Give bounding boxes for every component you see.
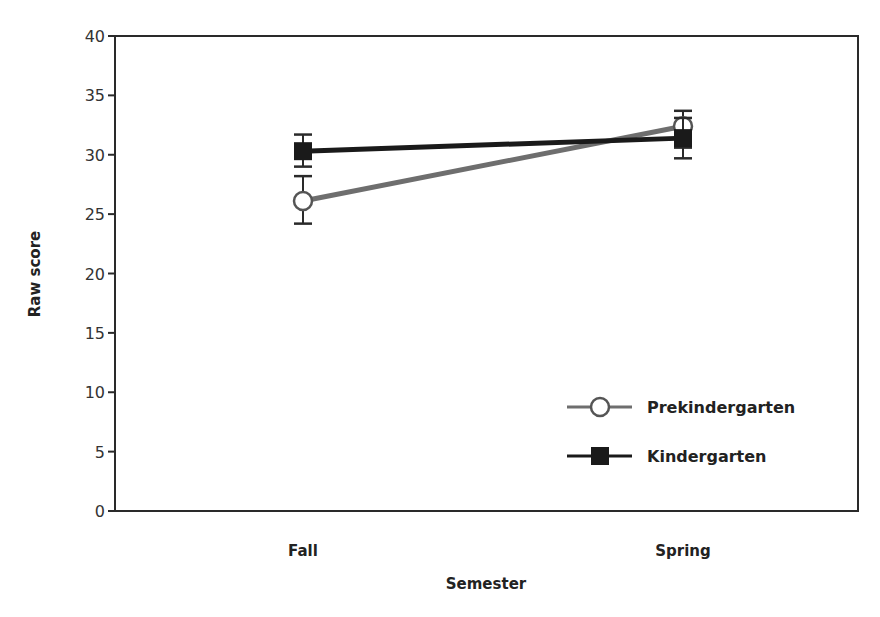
legend-label: Prekindergarten <box>647 398 795 417</box>
y-tick-label: 15 <box>85 324 105 343</box>
x-axis-labels: FallSpring <box>288 542 711 560</box>
y-tick-label: 40 <box>85 27 105 46</box>
series-line-kindergarten <box>303 138 683 151</box>
x-tick-label: Spring <box>655 542 711 560</box>
y-tick-label: 10 <box>85 383 105 402</box>
line-chart: 0510152025303540 FallSpring Raw score Se… <box>0 0 880 617</box>
open-circle-marker-icon <box>294 192 312 210</box>
filled-square-marker-icon <box>294 142 312 160</box>
legend-item-kindergarten: Kindergarten <box>567 447 767 466</box>
x-axis-title: Semester <box>446 575 527 593</box>
legend-item-prekindergarten: Prekindergarten <box>567 398 795 417</box>
y-axis-title: Raw score <box>26 231 44 317</box>
legend: PrekindergartenKindergarten <box>567 398 795 466</box>
open-circle-marker-icon <box>591 398 609 416</box>
x-tick-label: Fall <box>288 542 318 560</box>
data-series <box>294 111 692 224</box>
y-axis-ticks: 0510152025303540 <box>85 27 115 521</box>
y-tick-label: 25 <box>85 205 105 224</box>
y-tick-label: 0 <box>95 502 105 521</box>
y-tick-label: 5 <box>95 443 105 462</box>
y-tick-label: 30 <box>85 146 105 165</box>
y-tick-label: 20 <box>85 265 105 284</box>
y-tick-label: 35 <box>85 86 105 105</box>
legend-label: Kindergarten <box>647 447 767 466</box>
filled-square-marker-icon <box>591 447 609 465</box>
filled-square-marker-icon <box>674 129 692 147</box>
plot-area <box>115 36 858 511</box>
plot-frame <box>115 36 858 511</box>
series-line-prekindergarten <box>303 126 683 201</box>
